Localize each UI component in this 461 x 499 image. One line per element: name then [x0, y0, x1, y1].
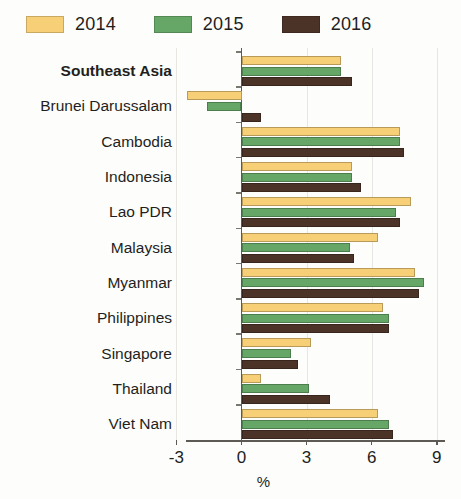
bar-myanmar-2014 [242, 268, 416, 277]
category-label-cambodia: Cambodia [0, 134, 172, 150]
legend-item-2014: 2014 [26, 14, 116, 35]
x-tick-label: 3 [287, 448, 327, 468]
category-label-philippines: Philippines [0, 310, 172, 326]
row-tick-mark [236, 298, 241, 300]
chart-plot-area: Southeast AsiaBrunei DarussalamCambodiaI… [0, 48, 461, 499]
gridline [176, 48, 177, 440]
bar-lao-pdr-2014 [242, 197, 411, 206]
row-tick-mark [236, 404, 241, 406]
x-tick-mark [176, 440, 178, 445]
bar-malaysia-2015 [242, 243, 351, 252]
category-label-lao-pdr: Lao PDR [0, 204, 172, 220]
bar-singapore-2016 [242, 360, 298, 369]
bar-malaysia-2014 [242, 233, 379, 242]
bar-singapore-2015 [242, 349, 292, 358]
bar-philippines-2016 [242, 324, 390, 333]
bar-viet-nam-2015 [242, 420, 390, 429]
category-label-myanmar: Myanmar [0, 275, 172, 291]
x-tick-mark [436, 440, 438, 445]
category-label-brunei-darussalam: Brunei Darussalam [0, 98, 172, 114]
category-label-malaysia: Malaysia [0, 240, 172, 256]
bar-brunei-darussalam-2014 [187, 91, 241, 100]
row-tick-mark [236, 86, 241, 88]
x-axis-line [186, 440, 445, 442]
category-label-southeast-asia: Southeast Asia [0, 63, 172, 79]
bar-lao-pdr-2016 [242, 218, 400, 227]
bar-southeast-asia-2016 [242, 77, 353, 86]
bar-viet-nam-2016 [242, 430, 394, 439]
bar-brunei-darussalam-2015 [207, 102, 242, 111]
bar-philippines-2015 [242, 314, 390, 323]
legend-label: 2015 [203, 14, 244, 35]
bar-lao-pdr-2015 [242, 208, 396, 217]
bar-cambodia-2015 [242, 137, 400, 146]
x-tick-label: 9 [417, 448, 457, 468]
row-tick-mark [236, 228, 241, 230]
row-tick-mark [236, 263, 241, 265]
category-label-viet-nam: Viet Nam [0, 416, 172, 432]
bar-malaysia-2016 [242, 254, 355, 263]
row-tick-mark [236, 51, 241, 53]
bar-viet-nam-2014 [242, 409, 379, 418]
category-axis-labels: Southeast AsiaBrunei DarussalamCambodiaI… [0, 48, 172, 443]
x-tick-mark [371, 440, 373, 445]
bar-singapore-2014 [242, 338, 311, 347]
bar-brunei-darussalam-2016 [242, 113, 262, 122]
x-tick-label: -3 [156, 448, 196, 468]
bar-southeast-asia-2014 [242, 56, 342, 65]
row-tick-mark [236, 122, 241, 124]
bar-thailand-2014 [242, 374, 262, 383]
legend-swatch-icon-2015 [154, 16, 192, 33]
bar-southeast-asia-2015 [242, 67, 342, 76]
x-tick-label: 0 [222, 448, 262, 468]
x-tick-mark [306, 440, 308, 445]
chart-legend: 201420152016 [0, 0, 461, 48]
bar-thailand-2015 [242, 384, 309, 393]
gridline [372, 48, 373, 440]
bar-indonesia-2016 [242, 183, 361, 192]
legend-item-2016: 2016 [282, 14, 372, 35]
legend-item-2015: 2015 [154, 14, 244, 35]
gridline [437, 48, 438, 440]
legend-swatch-icon-2016 [282, 16, 320, 33]
bar-indonesia-2015 [242, 173, 353, 182]
bar-myanmar-2016 [242, 289, 420, 298]
x-axis-title: % [0, 473, 461, 490]
x-tick-mark [241, 440, 243, 445]
bar-thailand-2016 [242, 395, 331, 404]
category-label-singapore: Singapore [0, 346, 172, 362]
bar-indonesia-2014 [242, 162, 353, 171]
x-tick-label: 6 [352, 448, 392, 468]
row-tick-mark [236, 157, 241, 159]
row-tick-mark [236, 333, 241, 335]
legend-swatch-icon-2014 [26, 16, 64, 33]
row-tick-mark [236, 369, 241, 371]
bar-cambodia-2016 [242, 148, 405, 157]
category-label-indonesia: Indonesia [0, 169, 172, 185]
bar-myanmar-2015 [242, 278, 424, 287]
row-tick-mark [236, 192, 241, 194]
category-label-thailand: Thailand [0, 381, 172, 397]
legend-label: 2014 [75, 14, 116, 35]
bar-philippines-2014 [242, 303, 383, 312]
bar-cambodia-2014 [242, 127, 400, 136]
legend-label: 2016 [331, 14, 372, 35]
